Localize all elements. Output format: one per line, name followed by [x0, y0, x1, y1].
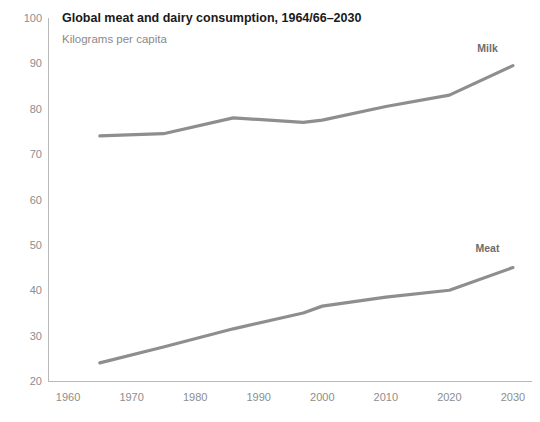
line-chart: Global meat and dairy consumption, 1964/… — [0, 0, 540, 422]
x-axis-tick-labels: 19601970198019902000201020202030 — [56, 391, 525, 403]
y-tick-label: 70 — [30, 148, 42, 160]
x-tick-label: 1960 — [56, 391, 80, 403]
x-tick-label: 1970 — [119, 391, 143, 403]
y-tick-label: 80 — [30, 103, 42, 115]
y-tick-label: 20 — [30, 375, 42, 387]
chart-subtitle: Kilograms per capita — [62, 33, 167, 45]
x-tick-label: 2000 — [310, 391, 334, 403]
y-tick-label: 60 — [30, 194, 42, 206]
y-tick-label: 30 — [30, 330, 42, 342]
x-tick-label: 2010 — [374, 391, 398, 403]
y-axis-tick-labels: 2030405060708090100 — [24, 12, 42, 387]
chart-container: Global meat and dairy consumption, 1964/… — [0, 0, 540, 422]
y-tick-label: 40 — [30, 284, 42, 296]
series-line-milk — [100, 66, 513, 136]
x-tick-label: 1980 — [183, 391, 207, 403]
y-tick-label: 100 — [24, 12, 42, 24]
series-line-meat — [100, 268, 513, 363]
series-lines-group — [100, 66, 513, 363]
x-tick-label: 1990 — [246, 391, 270, 403]
y-tick-label: 50 — [30, 239, 42, 251]
x-tick-label: 2020 — [437, 391, 461, 403]
chart-title: Global meat and dairy consumption, 1964/… — [62, 11, 361, 25]
series-label-milk: Milk — [477, 42, 498, 54]
series-label-meat: Meat — [476, 242, 500, 254]
y-tick-label: 90 — [30, 57, 42, 69]
x-tick-label: 2030 — [501, 391, 525, 403]
